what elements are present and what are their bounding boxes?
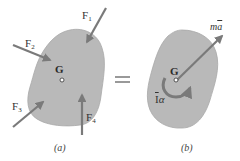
force-label-f1: F1 [82, 10, 92, 23]
force-label-f3: F3 [12, 101, 22, 114]
mass-center-label-b: G [170, 66, 179, 77]
mass-center-a-icon [60, 78, 64, 82]
caption-a: (a) [54, 143, 66, 153]
force-label-f4: F4 [86, 112, 96, 125]
rigid-body-diagram [0, 0, 240, 161]
force-label-f2: F2 [25, 38, 35, 51]
linear-inertia-label: ma [210, 22, 222, 32]
angular-inertia-label: Iα [155, 94, 164, 105]
mass-center-b-icon [174, 78, 178, 82]
mass-center-label-a: G [55, 64, 64, 75]
rigid-body-b [147, 30, 217, 128]
caption-b: (b) [181, 143, 193, 153]
